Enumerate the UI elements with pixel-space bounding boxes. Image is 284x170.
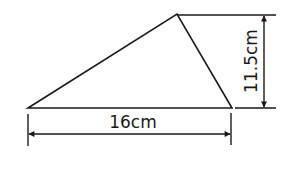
triangle-diagram: 16cm 11.5cm xyxy=(0,0,284,170)
diagram-svg: 16cm 11.5cm xyxy=(0,0,284,170)
triangle-shape xyxy=(28,14,232,108)
base-label: 16cm xyxy=(109,112,157,132)
height-label: 11.5cm xyxy=(241,29,261,93)
